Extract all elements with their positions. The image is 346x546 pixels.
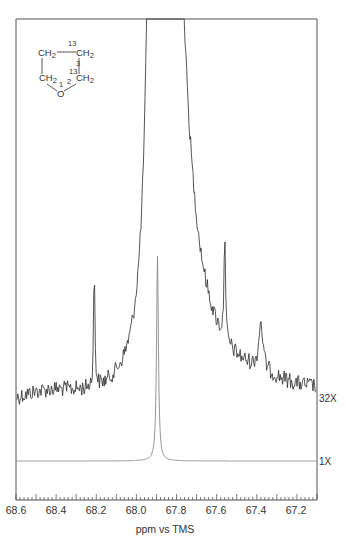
tick-label: 68.2	[86, 504, 107, 516]
gain-label-1x: 1X	[319, 456, 332, 467]
oxygen-atom: O	[57, 88, 64, 99]
thf-structure-diagram: CH2 CH2 CH2 CH2 O 13 13 3 2 1	[38, 39, 94, 99]
gain-label-32x: 32X	[319, 393, 337, 404]
trace-1x	[16, 256, 317, 461]
label-13-top: 13	[68, 39, 76, 48]
tick-label: 68.6	[6, 504, 27, 516]
tick-label: 68.4	[46, 504, 67, 516]
x-axis-ticks	[16, 494, 317, 500]
label-3: 3	[76, 59, 80, 68]
tick-label: 67.8	[166, 504, 187, 516]
label-13-mid: 13	[69, 67, 77, 76]
bond	[47, 84, 57, 91]
label-2: 2	[67, 77, 71, 86]
tick-label: 68.0	[126, 504, 147, 516]
label-1: 1	[59, 80, 63, 89]
tick-label: 67.4	[246, 504, 267, 516]
nmr-spectrum-plot: 68.6 68.4 68.2 68.0 67.8 67.6 67.4 67.2 …	[0, 0, 346, 546]
tick-label: 67.6	[206, 504, 227, 516]
ch2-top-left: CH2	[38, 47, 56, 60]
tick-label: 67.2	[286, 504, 307, 516]
trace-32x	[17, 19, 315, 404]
x-axis-tick-labels: 68.6 68.4 68.2 68.0 67.8 67.6 67.4 67.2	[6, 504, 307, 516]
x-axis-label: ppm vs TMS	[136, 523, 195, 535]
